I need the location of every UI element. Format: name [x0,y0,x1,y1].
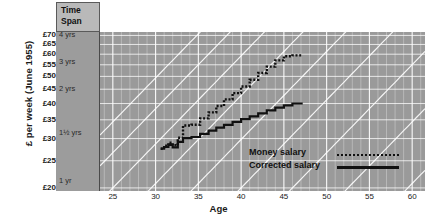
y-tick-label: £25 [43,157,56,165]
chart-figure: £ per week (June 1955) £20£25£30£35£40£4… [0,0,437,222]
y-tick-label: £20 [43,184,56,192]
y-axis-tick-labels: £20£25£30£35£40£45£50£55£60£65£70 [24,0,56,222]
y-tick-label: £30 [43,135,56,143]
legend-swatch-dotted-line [337,154,399,156]
x-tick-label: 25 [108,192,117,201]
time-span-header-line2: Span [61,16,99,27]
x-axis-title: Age [0,203,437,214]
x-tick-label: 35 [194,192,203,201]
legend-swatch-solid-line [337,166,399,169]
legend-label-corrected-salary: Corrected salary [249,160,320,170]
chart-legend: Money salary Corrected salary [249,147,401,175]
time-span-header-line1: Time [61,5,99,16]
time-span-label: 1 yr [59,177,72,185]
x-tick-label: 40 [237,192,246,201]
x-tick-label: 55 [365,192,374,201]
y-tick-label: £50 [43,72,56,80]
x-tick-label: 60 [408,192,417,201]
x-tick-label: 45 [279,192,288,201]
legend-item-corrected-salary: Corrected salary [249,160,401,173]
time-span-column: 4 yrs3 yrs2 yrs1½ yrs1 yr [56,32,100,191]
y-tick-label: £55 [43,61,56,69]
time-span-header-box: Time Span [56,2,100,32]
x-tick-label: 50 [322,192,331,201]
time-span-label: 4 yrs [59,31,75,39]
legend-label-money-salary: Money salary [249,147,306,157]
series-money-salary [161,55,303,148]
y-tick-label: £70 [43,31,56,39]
x-tick-label: 30 [151,192,160,201]
data-series [161,55,303,148]
y-tick-label: £60 [43,50,56,58]
grid-line-diagonal [100,32,267,166]
legend-item-money-salary: Money salary [249,147,401,160]
y-tick-label: £45 [43,85,56,93]
y-tick-label: £40 [43,100,56,108]
y-tick-label: £35 [43,116,56,124]
time-span-label: 2 yrs [59,85,75,93]
time-span-label: 3 yrs [59,58,75,66]
y-tick-label: £65 [43,40,56,48]
time-span-label: 1½ yrs [59,129,82,137]
